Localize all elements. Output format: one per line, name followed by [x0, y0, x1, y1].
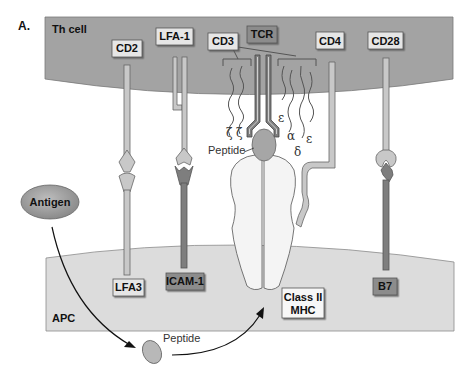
class2-mhc-label-line1: Class II [284, 291, 323, 303]
lfa3-stalk [124, 190, 130, 275]
apc-label: APC [52, 312, 75, 324]
zeta-2-label: ζ [236, 126, 243, 140]
lfa1-head [176, 148, 192, 165]
lfa3-head [119, 173, 135, 192]
antigen-label: Antigen [30, 196, 71, 208]
epsilon-1-label: ε [278, 111, 284, 125]
icam1-head [175, 166, 193, 185]
icam1-label: ICAM-1 [166, 275, 204, 287]
bound-peptide-label: Peptide [208, 144, 245, 156]
free-peptide-label: Peptide [163, 332, 200, 344]
th-cell-label: Th cell [52, 23, 87, 35]
cd2-label: CD2 [116, 42, 138, 54]
icam1-stalk [181, 183, 187, 268]
delta-label: δ [294, 145, 301, 159]
b7-stalk [383, 180, 389, 270]
tcr-label: TCR [251, 28, 274, 40]
cd28-label: CD28 [371, 35, 399, 47]
cd28-stalk [383, 58, 389, 153]
class2-mhc-label-line2: MHC [290, 304, 315, 316]
free-peptide [139, 337, 165, 366]
epsilon-2-label: ε [306, 132, 312, 146]
cd3-label: CD3 [212, 35, 234, 47]
bound-peptide [252, 129, 276, 161]
cd28-b7-pair [376, 58, 396, 270]
lfa3-label: LFA3 [115, 281, 142, 293]
panel-label: A. [18, 19, 30, 33]
b7-label: B7 [378, 280, 392, 292]
lfa1-beta-stalk [182, 57, 187, 157]
cd4-label: CD4 [319, 35, 342, 47]
th-apc-interaction-diagram: A. Th cell APC [0, 0, 471, 380]
alpha-label: α [287, 129, 295, 143]
lfa1-label: LFA-1 [159, 30, 190, 42]
zeta-1-label: ζ [226, 126, 233, 140]
cd2-lfa3-pair [119, 65, 135, 275]
cd2-head [119, 150, 135, 172]
